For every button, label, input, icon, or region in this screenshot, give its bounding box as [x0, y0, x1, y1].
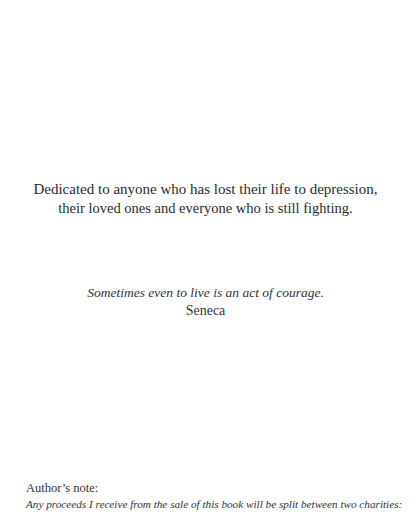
authors-note-label: Author’s note:	[26, 480, 411, 496]
dedication-line-1: Dedicated to anyone who has lost their l…	[0, 180, 411, 199]
epigraph-quote: Sometimes even to live is an act of cour…	[0, 284, 411, 302]
book-page: Dedicated to anyone who has lost their l…	[0, 0, 411, 513]
authors-note: Author’s note: Any proceeds I receive fr…	[26, 480, 411, 512]
dedication: Dedicated to anyone who has lost their l…	[0, 180, 411, 218]
authors-note-text: Any proceeds I receive from the sale of …	[26, 496, 411, 512]
epigraph: Sometimes even to live is an act of cour…	[0, 284, 411, 320]
epigraph-attribution: Seneca	[0, 302, 411, 320]
dedication-line-2: their loved ones and everyone who is sti…	[0, 199, 411, 218]
